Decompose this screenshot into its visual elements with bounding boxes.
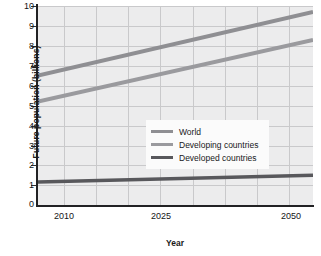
line-developing-countries [38,40,313,102]
y-axis-title: Future population (billions) [31,17,41,187]
legend-swatch-developing-countries [151,143,173,146]
legend-label-developed-countries: Developed countries [179,153,257,163]
legend-item-developed-countries: Developed countries [151,151,265,164]
chart-legend: World Developing countries Developed cou… [146,120,269,169]
y-axis-label-10: 10 [8,1,34,11]
x-axis-label-2010: 2010 [41,211,87,221]
y-axis-label-0: 0 [8,199,34,209]
x-axis-label-2050: 2050 [268,211,314,221]
plot-area: World Developing countries Developed cou… [38,6,313,205]
population-projection-chart: World Developing countries Developed cou… [0,0,321,256]
legend-label-developing-countries: Developing countries [179,140,258,150]
x-axis-title: Year [37,238,313,248]
legend-item-world: World [151,125,265,138]
legend-item-developing-countries: Developing countries [151,138,265,151]
line-developed-countries [38,175,313,182]
legend-label-world: World [179,127,201,137]
line-world [38,12,313,76]
x-axis-line [36,205,314,207]
legend-swatch-developed-countries [151,156,173,159]
series-lines [38,6,313,205]
legend-swatch-world [151,130,173,133]
x-axis-label-2025: 2025 [138,211,184,221]
